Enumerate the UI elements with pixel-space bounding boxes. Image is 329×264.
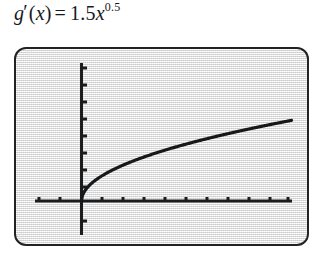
plot-area [16,49,307,244]
prime-symbol: ′ [23,1,28,23]
equation-caption: g′(x)=1.5x0.5 [14,2,120,25]
calculator-screen [14,47,309,246]
coefficient: 1.5 [70,2,96,24]
curve-gprime [82,120,292,201]
equals-sign: = [55,2,66,24]
close-paren: ) [45,2,52,24]
base-variable: x [96,2,105,24]
function-variable: x [36,2,45,24]
open-paren: ( [29,2,36,24]
exponent: 0.5 [105,0,121,14]
